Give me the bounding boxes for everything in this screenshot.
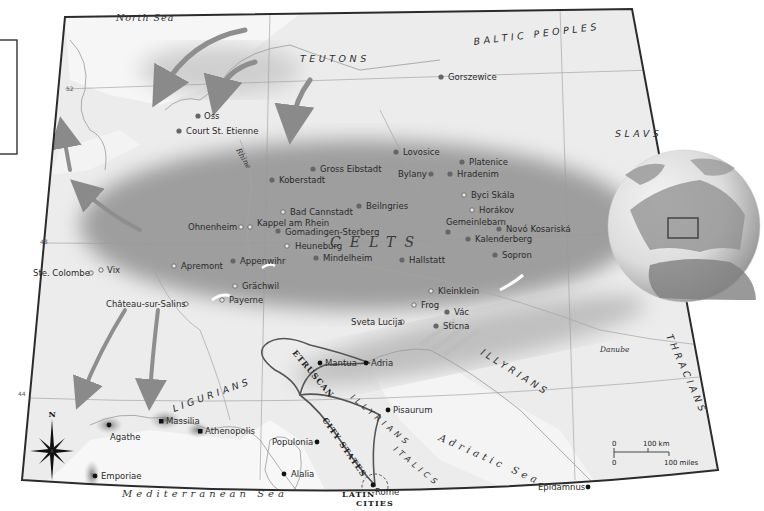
site-label: Court St. Etienne xyxy=(186,126,258,136)
site-label: Ohnenheim xyxy=(188,222,237,232)
city-label: Agathe xyxy=(110,432,140,442)
river-label-danube: Danube xyxy=(599,345,630,354)
site-label: Vác xyxy=(454,307,469,317)
city-label: Massilia xyxy=(166,416,200,426)
people-label-cities: CITIES xyxy=(356,498,394,508)
latitude-label: 48 xyxy=(40,238,48,245)
people-label-slavs: SLAVS xyxy=(615,128,662,139)
site-label: Kleinklein xyxy=(438,286,479,296)
locator-globe xyxy=(608,150,760,302)
scale-mi-label: 100 miles xyxy=(664,459,699,467)
site-label: Appenwihr xyxy=(240,256,286,266)
city-label: Alalia xyxy=(291,469,314,479)
city-label: Populonia xyxy=(272,437,313,447)
city-label: Emporiae xyxy=(101,471,142,481)
site-label: Frog xyxy=(421,300,439,310)
site-label: Gorszewice xyxy=(448,72,497,82)
site-label: Oss xyxy=(204,111,220,121)
site-label: Château-sur-Salins xyxy=(106,299,186,309)
city-label: Adria xyxy=(371,358,393,368)
scale-km-zero: 0 xyxy=(612,440,616,448)
site-label: Gemeinlebarn xyxy=(446,217,506,227)
latitude-label: 44 xyxy=(18,390,26,397)
site-label: Gomadingen-Sterberg xyxy=(285,227,379,237)
site-label: Payerne xyxy=(229,295,263,305)
site-label: Horákov xyxy=(479,205,514,215)
site-label: Koberstadt xyxy=(279,175,326,185)
city-label: Pisaurum xyxy=(393,405,433,415)
site-label: Mindelheim xyxy=(323,253,372,263)
site-label: Sticna xyxy=(443,321,469,331)
latitude-label: 52 xyxy=(66,85,74,92)
city-label: Rome xyxy=(375,487,399,497)
site-label: Bad Cannstadt xyxy=(290,207,353,217)
site-label: Heuneburg xyxy=(295,241,342,251)
site-label: Sveta Lucija xyxy=(351,317,402,327)
city-label: Epidamnus xyxy=(538,482,586,492)
city-label: Mantua xyxy=(325,358,357,368)
scale-km-label: 100 km xyxy=(643,440,670,448)
site-label: Gross Eibstadt xyxy=(320,164,382,174)
site-label: Novó Kosariská xyxy=(506,224,571,234)
site-label: Kalenderberg xyxy=(475,234,532,244)
celtic-europe-map: 52 48 44 North Sea Mediterranean Sea Adr… xyxy=(0,0,764,511)
site-label: Byci Skála xyxy=(471,190,515,200)
site-label: Beilngries xyxy=(366,201,409,211)
site-label: Bylany xyxy=(398,169,427,179)
city-label: Athenopolis xyxy=(205,426,256,436)
compass-north-label: N xyxy=(49,409,56,419)
site-label: Sopron xyxy=(502,250,532,260)
legend-panel xyxy=(0,40,17,154)
site-label: Apremont xyxy=(181,261,224,271)
site-label: Grächwil xyxy=(242,281,279,291)
site-label: Platenice xyxy=(469,157,508,167)
scale-mi-zero: 0 xyxy=(612,459,616,467)
site-label: Vix xyxy=(107,265,120,275)
people-label-teutons: TEUTONS xyxy=(300,53,370,64)
site-label: Ste. Colombe xyxy=(33,268,90,278)
sea-label-mediterranean: Mediterranean Sea xyxy=(121,488,288,499)
site-label: Hradenim xyxy=(457,169,499,179)
sea-label-north: North Sea xyxy=(115,12,174,23)
site-label: Lovosice xyxy=(403,147,440,157)
site-label: Hallstatt xyxy=(409,255,446,265)
